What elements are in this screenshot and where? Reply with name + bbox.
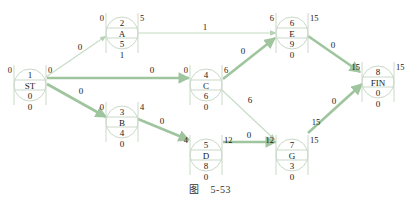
node-slack: 0 bbox=[376, 99, 381, 109]
node-early-finish: 0 bbox=[48, 65, 52, 75]
node-id: 5 bbox=[204, 140, 209, 150]
caption-number: 5-53 bbox=[211, 184, 231, 195]
critical-arrow bbox=[47, 84, 106, 117]
edge-label: 0 bbox=[150, 65, 155, 75]
node-id: 7 bbox=[290, 140, 295, 150]
node-early-finish: 15 bbox=[396, 62, 405, 72]
node-slack: 0 bbox=[204, 102, 209, 112]
network-diagram: 0001006000 1ST00002A51053B40044C60065D80… bbox=[0, 0, 420, 200]
nodes-layer: 1ST00002A51053B40044C60065D804126E906157… bbox=[8, 13, 405, 182]
node-duration: 3 bbox=[290, 161, 295, 171]
edge-1-4: 0 bbox=[47, 65, 189, 78]
edge-label: 0 bbox=[332, 96, 337, 106]
edge-3-5: 0 bbox=[138, 116, 189, 140]
node-duration: 9 bbox=[290, 39, 295, 49]
edge-label: 0 bbox=[247, 130, 252, 140]
edge-label: 0 bbox=[79, 86, 84, 96]
node-b: 3B4004 bbox=[100, 102, 145, 149]
node-name: ST bbox=[25, 81, 36, 91]
node-duration: 5 bbox=[120, 39, 125, 49]
edge-label: 0 bbox=[160, 116, 165, 126]
node-id: 2 bbox=[120, 18, 125, 28]
node-duration: 0 bbox=[28, 91, 33, 101]
edge-1-3: 0 bbox=[47, 84, 106, 117]
node-slack: 0 bbox=[28, 102, 33, 112]
node-early-finish: 5 bbox=[140, 13, 144, 23]
node-early-start: 0 bbox=[184, 65, 188, 75]
edge-1-2: 0 bbox=[46, 36, 106, 77]
node-early-finish: 15 bbox=[310, 135, 319, 145]
edge-label: 1 bbox=[203, 22, 208, 32]
node-early-start: 0 bbox=[8, 65, 12, 75]
node-early-finish: 6 bbox=[224, 65, 228, 75]
edge-label: 6 bbox=[248, 95, 253, 105]
node-id: 1 bbox=[28, 70, 33, 80]
node-slack: 1 bbox=[120, 50, 125, 60]
node-early-finish: 12 bbox=[224, 135, 233, 145]
caption-prefix: 图 bbox=[189, 184, 200, 195]
arrow bbox=[46, 36, 106, 77]
node-id: 4 bbox=[204, 70, 209, 80]
node-g: 7G301215 bbox=[266, 135, 319, 182]
aux-labels-layer: 15 bbox=[312, 117, 321, 127]
node-id: 8 bbox=[376, 67, 381, 77]
edge-4-6: 0 bbox=[223, 38, 275, 79]
edge-label: 0 bbox=[331, 40, 336, 50]
node-duration: 6 bbox=[204, 91, 209, 101]
node-early-start: 0 bbox=[100, 13, 104, 23]
node-c: 4C6006 bbox=[184, 65, 229, 112]
figure-caption: 图 5-53 bbox=[0, 181, 420, 196]
node-duration: 8 bbox=[204, 161, 209, 171]
node-early-finish: 15 bbox=[310, 13, 319, 23]
node-id: 3 bbox=[120, 107, 125, 117]
edge-label: 0 bbox=[241, 46, 246, 56]
node-a: 2A5105 bbox=[100, 13, 145, 60]
node-slack: 0 bbox=[120, 139, 125, 149]
node-name: E bbox=[289, 29, 295, 39]
node-name: G bbox=[289, 151, 296, 161]
node-name: B bbox=[119, 118, 125, 128]
node-slack: 0 bbox=[290, 50, 295, 60]
node-e: 6E90615 bbox=[270, 13, 319, 60]
node-early-start: 15 bbox=[352, 62, 361, 72]
node-st: 1ST0000 bbox=[8, 65, 53, 112]
node-name: C bbox=[203, 81, 209, 91]
node-id: 6 bbox=[290, 18, 295, 28]
critical-arrow bbox=[223, 38, 275, 79]
node-name: D bbox=[203, 151, 210, 161]
edge-2-6: 1 bbox=[138, 22, 276, 33]
edge-aux-label: 15 bbox=[312, 117, 321, 127]
edge-label: 0 bbox=[78, 42, 83, 52]
node-early-start: 6 bbox=[270, 13, 274, 23]
node-duration: 0 bbox=[376, 88, 381, 98]
node-duration: 4 bbox=[120, 128, 125, 138]
node-name: A bbox=[119, 29, 126, 39]
node-early-start: 0 bbox=[100, 102, 104, 112]
node-d: 5D80412 bbox=[184, 135, 233, 182]
node-early-start: 12 bbox=[266, 135, 275, 145]
node-early-finish: 4 bbox=[140, 102, 145, 112]
node-name: FIN bbox=[371, 78, 386, 88]
